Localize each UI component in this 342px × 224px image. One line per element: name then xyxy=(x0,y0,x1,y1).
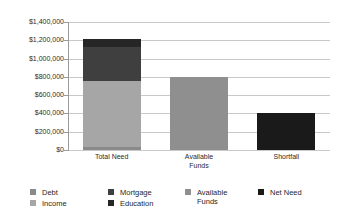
legend-item[interactable]: Mortgage xyxy=(108,188,152,197)
y-axis-tick-label: $600,000 xyxy=(2,91,64,99)
y-axis-labels: $0$200,000$400,000$600,000$800,000$1,000… xyxy=(0,22,64,150)
legend-swatch-icon xyxy=(30,200,36,206)
x-axis-category-labels: Total NeedAvailable FundsShortfall xyxy=(68,152,330,178)
y-axis-tick-mark xyxy=(64,150,68,151)
legend-swatch-icon xyxy=(30,189,36,195)
bar-segment[interactable] xyxy=(170,77,228,150)
y-axis-tick-label: $200,000 xyxy=(2,128,64,136)
legend-label: Debt xyxy=(42,188,58,197)
legend-item[interactable]: Education xyxy=(108,199,153,208)
legend-item[interactable]: Debt xyxy=(30,188,58,197)
gridline xyxy=(68,150,330,151)
y-axis-tick-label: $1,200,000 xyxy=(2,36,64,44)
legend-swatch-icon xyxy=(108,200,114,206)
legend-swatch-icon xyxy=(108,189,114,195)
legend-label: Available Funds xyxy=(197,188,227,206)
bar-column[interactable] xyxy=(257,22,315,150)
bar-segment[interactable] xyxy=(257,113,315,150)
x-axis-category-label: Total Need xyxy=(68,152,155,161)
bar-segment[interactable] xyxy=(83,81,141,148)
y-axis-tick-label: $800,000 xyxy=(2,73,64,81)
y-axis-tick-label: $0 xyxy=(2,146,64,154)
legend-swatch-icon xyxy=(258,189,264,195)
bar-segment[interactable] xyxy=(83,147,141,150)
y-axis-tick-label: $1,000,000 xyxy=(2,55,64,63)
chart-container: $0$200,000$400,000$600,000$800,000$1,000… xyxy=(0,0,342,224)
x-axis-category-label: Available Funds xyxy=(155,152,242,170)
legend-label: Net Need xyxy=(270,188,302,197)
legend-label: Mortgage xyxy=(120,188,152,197)
bar-series-layer xyxy=(68,22,330,150)
legend-item[interactable]: Available Funds xyxy=(185,188,227,206)
y-axis-tick-label: $400,000 xyxy=(2,109,64,117)
legend-label: Income xyxy=(42,199,67,208)
bar-column[interactable] xyxy=(170,22,228,150)
legend-item[interactable]: Net Need xyxy=(258,188,302,197)
legend-swatch-icon xyxy=(185,189,191,195)
bar-segment[interactable] xyxy=(83,47,141,81)
bar-segment[interactable] xyxy=(83,39,141,46)
legend-item[interactable]: Income xyxy=(30,199,67,208)
chart-legend: DebtIncomeMortgageEducationAvailable Fun… xyxy=(30,188,320,214)
bar-column[interactable] xyxy=(83,22,141,150)
x-axis-category-label: Shortfall xyxy=(243,152,330,161)
y-axis-tick-label: $1,400,000 xyxy=(2,18,64,26)
legend-label: Education xyxy=(120,199,153,208)
